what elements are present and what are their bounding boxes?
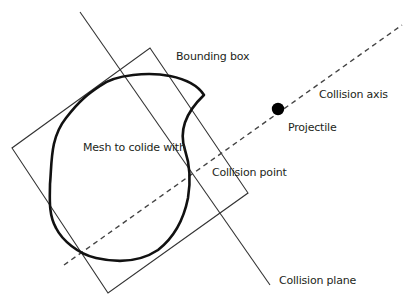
label-collision-axis: Collision axis xyxy=(319,89,388,100)
collision-diagram: Bounding box Collision axis Projectile M… xyxy=(0,0,412,302)
label-collision-point: Collision point xyxy=(212,167,287,178)
label-mesh: Mesh to colide with xyxy=(83,142,186,153)
label-bounding-box: Bounding box xyxy=(176,51,249,62)
diagram-graphics xyxy=(0,0,412,302)
label-projectile: Projectile xyxy=(288,122,337,133)
mesh-outline xyxy=(50,74,204,261)
label-collision-plane: Collision plane xyxy=(279,275,356,286)
projectile-dot xyxy=(272,103,284,115)
